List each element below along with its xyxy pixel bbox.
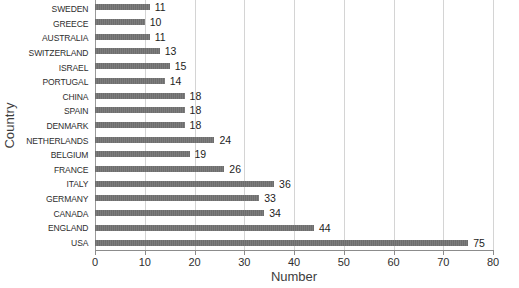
x-axis-tick-label: 10	[139, 256, 151, 268]
bar	[95, 137, 214, 143]
y-axis-title: Country	[0, 0, 18, 250]
bar-value-label: 13	[165, 46, 177, 57]
bar	[95, 181, 274, 187]
x-axis-tick-label: 20	[188, 256, 200, 268]
bar-row: 44	[95, 221, 493, 236]
bar	[95, 93, 185, 99]
bar-row: 18	[95, 118, 493, 133]
bar	[95, 19, 145, 25]
x-axis-tick	[493, 251, 494, 255]
bar	[95, 63, 170, 69]
bar-value-label: 24	[219, 134, 231, 145]
category-label: GREECE	[23, 17, 92, 32]
x-axis-tick-label: 30	[238, 256, 250, 268]
bar	[95, 34, 150, 40]
bar-value-label: 18	[190, 105, 202, 116]
category-label: NETHERLANDS	[23, 133, 92, 148]
x-axis-tick-label: 40	[288, 256, 300, 268]
bar-row: 11	[95, 0, 493, 15]
x-axis-ticks	[95, 251, 493, 255]
gridline	[493, 0, 494, 250]
bar	[95, 240, 468, 246]
bar-value-label: 15	[175, 61, 187, 72]
bar-value-label: 11	[155, 2, 166, 13]
category-label: AUSTRALIA	[23, 31, 92, 46]
bars-layer: 1110111315141818182419263633344475	[95, 0, 493, 250]
bar-value-label: 11	[155, 32, 166, 43]
bar-value-label: 75	[473, 237, 485, 248]
bar-row: 18	[95, 88, 493, 103]
bar-row: 24	[95, 132, 493, 147]
category-label: SWEDEN	[23, 2, 92, 17]
x-axis-tick	[244, 251, 245, 255]
bar	[95, 107, 185, 113]
bar-value-label: 36	[279, 179, 291, 190]
x-axis-tick	[195, 251, 196, 255]
bar-value-label: 14	[170, 76, 182, 87]
bar-value-label: 34	[269, 208, 281, 219]
bar	[95, 151, 190, 157]
plot-area: 1110111315141818182419263633344475	[95, 0, 493, 250]
bar	[95, 48, 160, 54]
category-label: ENGLAND	[23, 221, 92, 236]
x-axis-tick	[344, 251, 345, 255]
bar-row: 15	[95, 59, 493, 74]
x-axis-title: Number	[95, 269, 493, 284]
bar	[95, 166, 224, 172]
bar-row: 19	[95, 147, 493, 162]
bar-row: 36	[95, 176, 493, 191]
bar	[95, 210, 264, 216]
bar-chart: Country SWEDENGREECEAUSTRALIASWITZERLAND…	[0, 0, 519, 288]
x-axis-tick	[394, 251, 395, 255]
category-label: SPAIN	[23, 104, 92, 119]
bar-value-label: 18	[190, 90, 202, 101]
x-axis-tick-label: 0	[92, 256, 98, 268]
bar	[95, 195, 259, 201]
bar-row: 33	[95, 191, 493, 206]
x-axis-tick	[294, 251, 295, 255]
category-label: SWITZERLAND	[23, 46, 92, 61]
category-label: FRANCE	[23, 163, 92, 178]
category-label: ISRAEL	[23, 60, 92, 75]
x-axis-tick	[443, 251, 444, 255]
x-axis-tick-label: 80	[487, 256, 499, 268]
category-label: ITALY	[23, 177, 92, 192]
bar-row: 10	[95, 15, 493, 30]
bar-row: 13	[95, 44, 493, 59]
bar-row: 14	[95, 74, 493, 89]
bar	[95, 78, 165, 84]
bar-row: 26	[95, 162, 493, 177]
bar	[95, 225, 314, 231]
category-label: BELGIUM	[23, 148, 92, 163]
category-label: CANADA	[23, 206, 92, 221]
x-axis-tick-label: 50	[338, 256, 350, 268]
y-axis-category-labels: SWEDENGREECEAUSTRALIASWITZERLANDISRAELPO…	[18, 2, 92, 250]
bar-row: 18	[95, 103, 493, 118]
x-axis-tick	[95, 251, 96, 255]
x-axis-tick-label: 60	[387, 256, 399, 268]
bar-value-label: 44	[319, 223, 331, 234]
y-axis-title-text: Country	[2, 102, 17, 148]
category-label: CHINA	[23, 90, 92, 105]
bar-value-label: 26	[229, 164, 241, 175]
bar-row: 11	[95, 29, 493, 44]
bar-row: 34	[95, 206, 493, 221]
bar-row: 75	[95, 235, 493, 250]
bar-value-label: 18	[190, 120, 202, 131]
bar-value-label: 33	[264, 193, 276, 204]
category-label: USA	[23, 236, 92, 251]
category-label: DENMARK	[23, 119, 92, 134]
bar	[95, 4, 150, 10]
bar-value-label: 19	[195, 149, 207, 160]
x-axis-tick-label: 70	[437, 256, 449, 268]
category-label: GERMANY	[23, 192, 92, 207]
bar	[95, 122, 185, 128]
x-axis-tick	[145, 251, 146, 255]
bar-value-label: 10	[150, 17, 162, 28]
category-label: PORTUGAL	[23, 75, 92, 90]
